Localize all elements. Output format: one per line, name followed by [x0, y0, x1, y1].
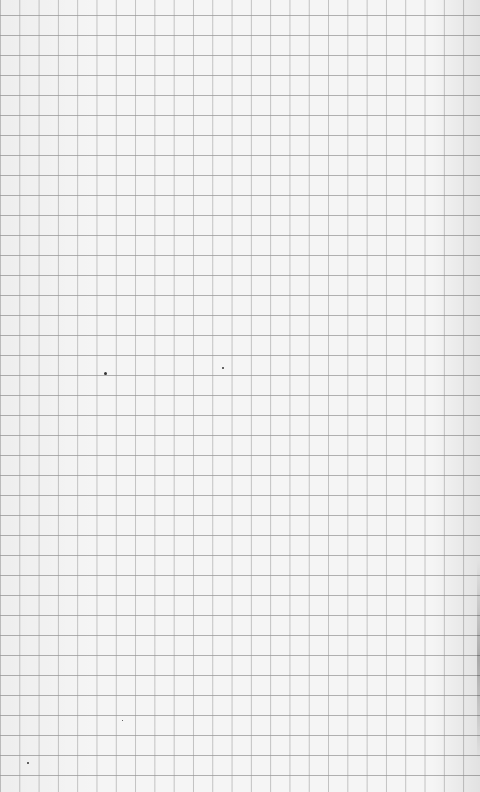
- speck: [104, 372, 107, 375]
- speck: [27, 762, 29, 764]
- speck: [122, 720, 123, 721]
- paper-shading: [0, 0, 480, 792]
- speck: [222, 367, 224, 369]
